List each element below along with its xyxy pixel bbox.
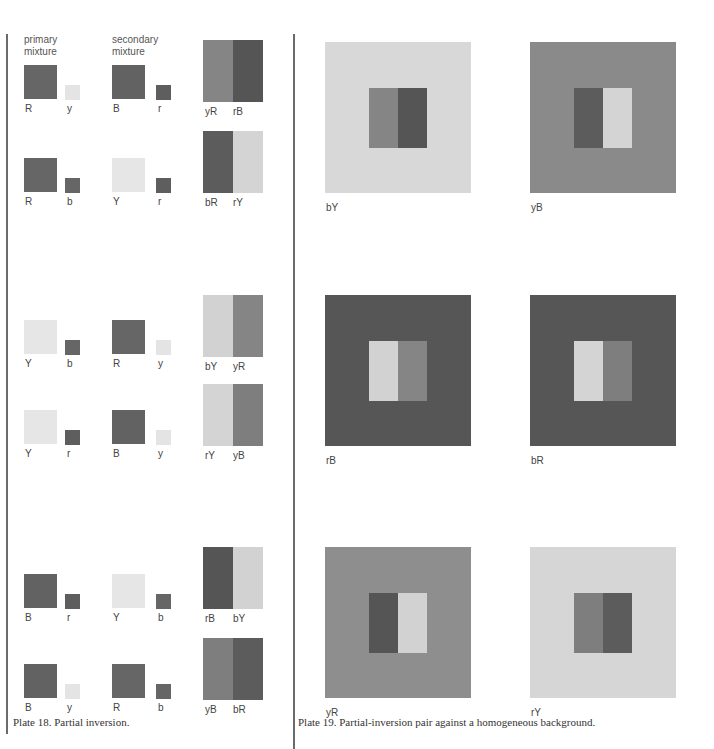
pair-left-label: rB [205, 613, 215, 624]
center-left-half [574, 341, 603, 401]
inversion-pair-swatch [203, 547, 263, 609]
secondary-large-swatch [112, 65, 145, 99]
secondary-large-swatch [112, 320, 145, 354]
primary-large-swatch [24, 65, 57, 99]
plate18-caption: Plate 18. Partial inversion. [13, 716, 129, 728]
secondary-small-swatch [156, 594, 171, 609]
primary-large-label: R [25, 103, 32, 114]
pair-right-label: bR [233, 704, 246, 715]
plate-label: bR [531, 455, 544, 466]
secondary-large-label: Y [113, 196, 120, 207]
center-right-half [398, 593, 427, 653]
header-primary-text: primary mixture [24, 34, 57, 57]
center-divider-rule [293, 34, 295, 749]
primary-small-swatch [65, 85, 80, 100]
secondary-small-swatch [156, 340, 171, 355]
inversion-pair-swatch [203, 295, 263, 357]
center-right-half [603, 593, 632, 653]
secondary-small-label: y [158, 448, 163, 459]
pair-left-half [203, 547, 233, 609]
pair-right-half [233, 131, 263, 193]
center-right-half [398, 341, 427, 401]
pair-right-half [233, 547, 263, 609]
center-pair [574, 341, 632, 401]
header-secondary-text: secondary mixture [112, 34, 158, 57]
pair-left-half [203, 131, 233, 193]
secondary-small-label: r [158, 196, 161, 207]
background-plate [530, 547, 676, 698]
primary-small-label: r [67, 612, 70, 623]
plate19-caption: Plate 19. Partial-inversion pair against… [298, 716, 595, 728]
pair-right-label: yR [233, 361, 245, 372]
secondary-large-swatch [112, 158, 145, 192]
background-plate [530, 295, 676, 446]
primary-large-swatch [24, 320, 57, 354]
center-right-half [603, 341, 632, 401]
secondary-small-label: r [158, 103, 161, 114]
header-primary-mixture: primary mixture [24, 34, 57, 58]
pair-left-half [203, 40, 233, 102]
primary-large-label: B [25, 612, 32, 623]
secondary-large-label: B [113, 103, 120, 114]
secondary-small-swatch [156, 85, 171, 100]
pair-right-half [233, 384, 263, 446]
pair-right-label: rY [233, 197, 243, 208]
secondary-large-swatch [112, 664, 145, 698]
plate-label: yR [326, 707, 338, 718]
pair-left-half [203, 384, 233, 446]
secondary-small-label: b [158, 702, 164, 713]
primary-small-swatch [65, 430, 80, 445]
primary-large-swatch [24, 574, 57, 608]
primary-small-label: b [67, 358, 73, 369]
secondary-large-label: B [113, 448, 120, 459]
background-plate [325, 295, 471, 446]
primary-large-label: B [25, 702, 32, 713]
pair-left-label: yB [205, 704, 217, 715]
center-left-half [574, 88, 603, 148]
background-plate [325, 42, 471, 193]
center-pair [369, 341, 427, 401]
plate-label: yB [531, 202, 543, 213]
primary-large-swatch [24, 410, 57, 444]
primary-small-label: y [67, 103, 72, 114]
secondary-small-swatch [156, 430, 171, 445]
center-right-half [398, 88, 427, 148]
pair-right-half [233, 295, 263, 357]
pair-left-half [203, 295, 233, 357]
plate-label: bY [326, 202, 338, 213]
center-right-half [603, 88, 632, 148]
secondary-large-label: Y [113, 612, 120, 623]
secondary-small-swatch [156, 178, 171, 193]
secondary-large-swatch [112, 574, 145, 608]
center-left-half [574, 593, 603, 653]
primary-small-swatch [65, 684, 80, 699]
pair-right-label: rB [233, 106, 243, 117]
primary-small-label: b [67, 196, 73, 207]
plate-label: rB [326, 455, 336, 466]
inversion-pair-swatch [203, 638, 263, 700]
primary-small-swatch [65, 594, 80, 609]
pair-left-label: bY [205, 361, 217, 372]
pair-left-label: rY [205, 450, 215, 461]
pair-right-label: bY [233, 613, 245, 624]
pair-left-label: bR [205, 197, 218, 208]
primary-large-label: Y [25, 448, 32, 459]
secondary-small-label: y [158, 358, 163, 369]
header-secondary-mixture: secondary mixture [112, 34, 158, 58]
pair-left-half [203, 638, 233, 700]
primary-small-swatch [65, 178, 80, 193]
pair-right-label: yB [233, 450, 245, 461]
center-pair [369, 88, 427, 148]
pair-left-label: yR [205, 106, 217, 117]
primary-small-label: r [67, 448, 70, 459]
center-pair [574, 88, 632, 148]
secondary-large-label: R [113, 358, 120, 369]
center-left-half [369, 88, 398, 148]
pair-right-half [233, 40, 263, 102]
primary-large-swatch [24, 158, 57, 192]
plate-label: rY [531, 707, 541, 718]
secondary-large-swatch [112, 410, 145, 444]
secondary-small-label: b [158, 612, 164, 623]
left-margin-rule [6, 34, 8, 734]
center-left-half [369, 593, 398, 653]
